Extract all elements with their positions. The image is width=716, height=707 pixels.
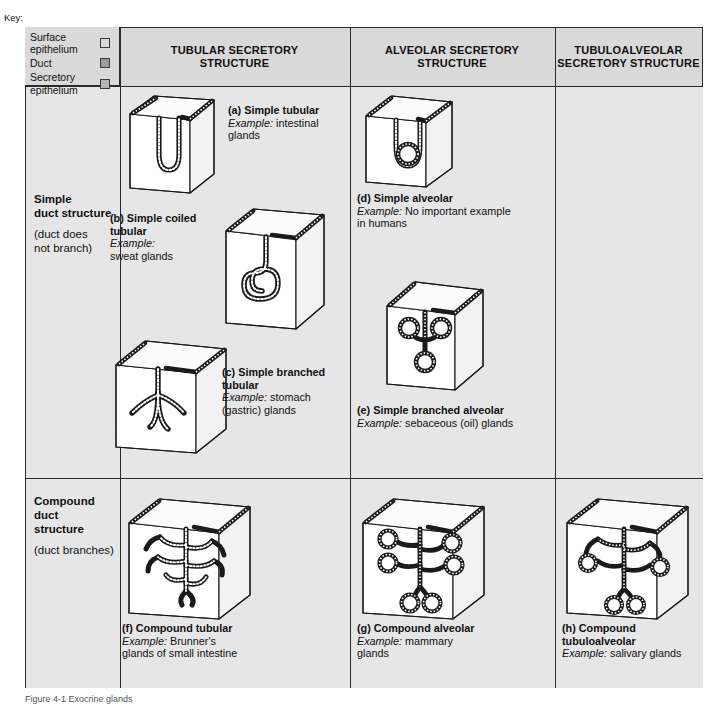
panel-a-example: Example: intestinal glands xyxy=(228,117,348,142)
figure-caption: Figure 4-1 Exocrine glands xyxy=(25,694,133,704)
cell-row1-col3-empty xyxy=(556,87,703,478)
panel-e-example-text: sebaceous (oil) glands xyxy=(402,417,513,429)
row-label-simple-duct-note: (duct doesnot branch) xyxy=(34,227,120,255)
panel-c-illustration xyxy=(110,335,235,460)
panel-d-example-label: Example: xyxy=(357,205,402,217)
row-label-compound-duct-note: (duct branches) xyxy=(34,543,120,557)
key-swatch-duct xyxy=(100,58,110,68)
panel-b-example-text: sweat glands xyxy=(110,250,206,263)
key-item-duct: Duct xyxy=(30,57,119,70)
panel-f-example-label: Example: xyxy=(122,635,167,647)
grid-hline-rowsplit-top xyxy=(26,478,702,479)
row-label-compound-duct: Compoundductstructure (duct branches) xyxy=(25,494,120,557)
panel-g-title: (g) Compound alveolar xyxy=(357,622,487,635)
column-header-tubuloalveolar: TUBULOALVEOLARSECRETORY STRUCTURE xyxy=(555,27,702,86)
panel-a-caption: (a) Simple tubular Example: intestinal g… xyxy=(228,104,348,142)
key-title: Key: xyxy=(4,12,23,23)
key-label-duct: Duct xyxy=(30,58,100,69)
panel-f-caption: (f) Compound tubular Example: Brunner's … xyxy=(122,622,242,660)
panel-h-example: Example: salivary glands xyxy=(562,647,697,660)
panel-g-caption: (g) Compound alveolar Example: mammary g… xyxy=(357,622,487,660)
column-header-tubuloalveolar-label: TUBULOALVEOLARSECRETORY STRUCTURE xyxy=(557,44,699,70)
panel-e-example-label: Example: xyxy=(357,417,402,429)
panel-g-example-label: Example: xyxy=(357,635,402,647)
panel-d-caption: (d) Simple alveolar Example: No importan… xyxy=(357,192,517,230)
column-header-alveolar-label: ALVEOLAR SECRETORYSTRUCTURE xyxy=(385,44,519,70)
panel-a-title: (a) Simple tubular xyxy=(228,104,348,117)
column-header-tubular: TUBULAR SECRETORYSTRUCTURE xyxy=(120,27,349,86)
panel-b-example-label: Example: xyxy=(110,237,206,250)
panel-h-illustration xyxy=(562,495,697,623)
panel-a-illustration xyxy=(126,92,221,197)
panel-b-caption: (b) Simple coiled tubular Example: sweat… xyxy=(110,212,206,262)
row-label-simple-duct-title: Simpleduct structure xyxy=(34,192,120,220)
panel-f-title: (f) Compound tubular xyxy=(122,622,242,635)
panel-c-example: Example: stomach (gastric) glands xyxy=(222,391,340,416)
key-item-secretory-epithelium: Secretoryepithelium xyxy=(30,70,119,97)
cell-row1-label-bg xyxy=(26,87,120,478)
panel-g-example: Example: mammary glands xyxy=(357,635,487,660)
column-header-tubular-label: TUBULAR SECRETORYSTRUCTURE xyxy=(171,44,298,70)
panel-b-title: (b) Simple coiled tubular xyxy=(110,212,206,237)
grid-vline-2-top xyxy=(350,28,351,687)
panel-f-example: Example: Brunner's glands of small intes… xyxy=(122,635,242,660)
panel-h-title: (h) Compound tubuloalveolar xyxy=(562,622,697,647)
panel-c-example-label: Example: xyxy=(222,391,267,403)
panel-c-title: (c) Simple branched tubular xyxy=(222,366,340,391)
panel-d-title: (d) Simple alveolar xyxy=(357,192,517,205)
panel-a-example-label: Example: xyxy=(228,117,273,129)
column-header-alveolar: ALVEOLAR SECRETORYSTRUCTURE xyxy=(350,27,554,86)
panel-e-illustration xyxy=(383,278,493,398)
panel-f-illustration xyxy=(124,495,259,623)
key-label-secretory-epithelium: Secretoryepithelium xyxy=(30,71,100,96)
panel-e-example: Example: sebaceous (oil) glands xyxy=(357,417,522,430)
row-label-simple-duct: Simpleduct structure (duct doesnot branc… xyxy=(25,192,120,255)
panel-h-example-text: salivary glands xyxy=(607,647,681,659)
panel-e-title: (e) Simple branched alveolar xyxy=(357,404,522,417)
panel-g-illustration xyxy=(358,495,493,623)
panel-b-illustration xyxy=(222,205,332,335)
key-swatch-surface-epithelium xyxy=(100,38,110,48)
panel-e-caption: (e) Simple branched alveolar Example: se… xyxy=(357,404,522,429)
panel-c-caption: (c) Simple branched tubular Example: sto… xyxy=(222,366,340,416)
panel-d-illustration xyxy=(362,92,462,192)
panel-h-example-label: Example: xyxy=(562,647,607,659)
panel-h-caption: (h) Compound tubuloalveolar Example: sal… xyxy=(562,622,697,660)
grid-hline-header-top xyxy=(26,86,702,87)
row-label-compound-duct-title: Compoundductstructure xyxy=(34,494,120,536)
panel-d-example: Example: No important example in humans xyxy=(357,205,517,230)
key-item-surface-epithelium: Surfaceepithelium xyxy=(30,30,119,57)
key-legend: Surfaceepithelium Duct Secretoryepitheli… xyxy=(25,27,120,86)
key-label-surface-epithelium: Surfaceepithelium xyxy=(30,31,100,56)
key-swatch-secretory-epithelium xyxy=(100,79,110,89)
grid-vline-3-top xyxy=(555,28,556,687)
